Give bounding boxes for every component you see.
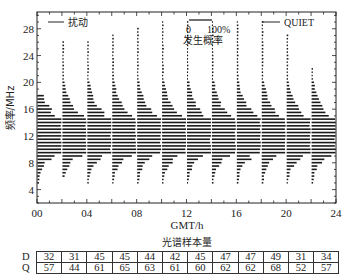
probability-bar <box>87 65 88 67</box>
probability-bar <box>87 75 88 77</box>
probability-bar <box>312 132 336 134</box>
probability-bar <box>237 138 260 140</box>
probability-bar <box>112 145 135 147</box>
probability-bar <box>262 48 264 50</box>
probability-bar <box>162 48 164 50</box>
probability-bar <box>38 98 45 100</box>
probability-bar <box>237 105 247 107</box>
probability-bar <box>312 85 315 87</box>
probability-bar <box>162 145 186 147</box>
probability-bar <box>312 75 313 77</box>
table-cell: 68 <box>263 263 288 274</box>
probability-bar <box>137 45 138 47</box>
probability-bar <box>187 182 188 184</box>
probability-bar <box>38 179 40 181</box>
probability-bar <box>312 92 317 94</box>
probability-bar <box>237 21 238 23</box>
table-cell: 61 <box>87 263 112 274</box>
probability-bar <box>87 51 89 53</box>
legend-disturbed-label: 扰动 <box>68 16 88 28</box>
probability-bar <box>212 162 222 164</box>
probability-bar <box>62 75 63 77</box>
probability-bar <box>187 48 188 50</box>
probability-bar <box>312 102 321 104</box>
probability-bar <box>262 45 264 47</box>
probability-bar <box>62 98 69 100</box>
probability-bar <box>262 71 263 73</box>
probability-bar <box>87 41 88 43</box>
table-cell: 47 <box>213 252 238 263</box>
probability-bar <box>62 145 86 147</box>
probability-bar <box>287 138 310 140</box>
table-cell: 57 <box>314 263 339 274</box>
probability-bar <box>262 81 264 83</box>
probability-bar <box>162 165 169 167</box>
probability-bar <box>262 172 265 174</box>
table-cell: 34 <box>314 252 339 263</box>
legend-quiet-label: QUIET <box>284 17 314 28</box>
probability-bar <box>237 65 239 67</box>
table-cell: 31 <box>288 252 313 263</box>
probability-bar <box>137 152 160 154</box>
probability-bar <box>87 118 111 120</box>
probability-bar <box>262 145 285 147</box>
probability-bar <box>212 58 213 60</box>
probability-bar <box>212 65 214 67</box>
probability-bar <box>212 125 236 127</box>
probability-bar <box>212 92 217 94</box>
probability-bar <box>137 172 140 174</box>
probability-chart: 481216202428 00040812162024 扰动 0 100% 发生… <box>0 0 348 278</box>
probability-bar <box>162 135 186 137</box>
probability-bar <box>187 55 188 57</box>
probability-bar <box>312 169 317 171</box>
probability-bar <box>212 115 231 117</box>
probability-bar <box>312 108 324 110</box>
probability-bar <box>237 175 240 177</box>
probability-bar <box>237 145 261 147</box>
row-label-q: Q <box>22 263 37 274</box>
probability-bar <box>262 65 263 67</box>
probability-bar <box>162 35 163 37</box>
probability-bar <box>162 81 164 83</box>
probability-bar <box>237 152 260 154</box>
probability-bar <box>287 88 290 90</box>
probability-bar <box>237 112 254 114</box>
probability-bar <box>287 169 291 171</box>
probability-bar <box>187 169 192 171</box>
probability-bar <box>112 105 122 107</box>
probability-bar <box>287 162 297 164</box>
probability-bar <box>312 135 336 137</box>
probability-bar <box>312 162 322 164</box>
probability-bar <box>212 85 215 87</box>
probability-bar <box>262 135 286 137</box>
probability-bar <box>187 122 211 124</box>
probability-bar <box>87 71 88 73</box>
probability-bar <box>137 98 144 100</box>
probability-bar <box>262 169 267 171</box>
probability-bar <box>137 159 149 161</box>
probability-bar <box>212 165 219 167</box>
table-cell: 62 <box>213 263 238 274</box>
probability-bar <box>87 48 88 50</box>
probability-bar <box>87 152 111 154</box>
probability-bar <box>162 71 164 73</box>
probability-bar <box>287 95 293 97</box>
probability-bar <box>87 155 102 157</box>
probability-bar <box>62 95 68 97</box>
probability-bar <box>38 132 61 134</box>
probability-bar <box>38 105 50 107</box>
probability-bar <box>112 48 113 50</box>
probability-bar <box>112 132 135 134</box>
probability-bar <box>137 78 138 80</box>
probability-bar <box>112 128 135 130</box>
probability-bar <box>262 122 285 124</box>
y-tick-label: 4 <box>29 184 35 196</box>
probability-bar <box>187 172 190 174</box>
probability-bar <box>87 61 88 63</box>
probability-bar <box>112 41 113 43</box>
probability-bar <box>162 51 163 53</box>
probability-bar <box>312 175 315 177</box>
probability-bar <box>87 138 111 140</box>
probability-bar <box>112 65 114 67</box>
probability-bar <box>187 105 196 107</box>
